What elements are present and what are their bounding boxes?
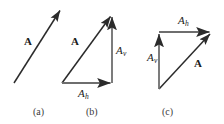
caption-a: (a) xyxy=(33,107,44,117)
label-vector-A-a: A xyxy=(24,36,32,47)
vector-A-arrow-a xyxy=(14,11,60,84)
panel-b-graphics xyxy=(62,17,112,84)
label-component-Av-b: Av xyxy=(116,45,126,57)
label-component-Ah-c-base: A xyxy=(178,14,185,26)
label-component-Av-b-base: A xyxy=(116,44,123,56)
label-component-Av-b-sub: v xyxy=(123,49,126,58)
label-component-Av-c: Av xyxy=(147,52,157,64)
caption-c: (c) xyxy=(162,107,173,117)
label-component-Ah-c: Ah xyxy=(178,15,189,27)
caption-b: (b) xyxy=(86,107,98,117)
label-component-Ah-b-base: A xyxy=(78,87,85,99)
vector-components-figure: A (a) A Ah Av (b) A Av Ah (c) xyxy=(0,0,224,124)
panel-a-graphics xyxy=(14,11,60,84)
label-vector-A-b: A xyxy=(71,36,79,47)
label-component-Ah-b: Ah xyxy=(78,88,89,100)
label-vector-A-c: A xyxy=(194,58,202,69)
panel-c-graphics xyxy=(159,32,210,89)
label-component-Av-c-base: A xyxy=(147,51,154,63)
label-component-Ah-b-sub: h xyxy=(85,92,89,101)
label-component-Av-c-sub: v xyxy=(154,56,157,65)
vector-A-arrow-c xyxy=(159,34,210,89)
label-component-Ah-c-sub: h xyxy=(185,19,189,28)
vector-A-arrow-b xyxy=(62,17,111,84)
